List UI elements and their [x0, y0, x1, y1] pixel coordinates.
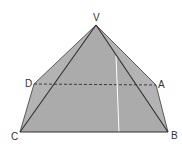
- pyramid-diagram: V D A C B: [0, 0, 182, 149]
- vertex-label-V: V: [93, 12, 100, 23]
- vertex-label-C: C: [11, 131, 18, 142]
- vertex-label-D: D: [25, 78, 32, 89]
- vertex-label-A: A: [158, 79, 165, 90]
- vertex-label-B: B: [171, 130, 178, 141]
